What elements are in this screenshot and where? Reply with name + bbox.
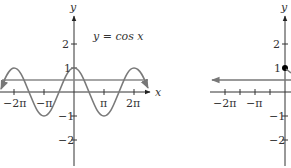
left-y-tick-label: −1 <box>58 110 74 123</box>
left-y-tick-label: −2 <box>58 134 74 147</box>
right-y-tick-label: 1 <box>274 62 281 75</box>
left-y-axis-label: y <box>69 1 77 14</box>
left-x-tick-label: −2π <box>3 97 26 110</box>
right-y-tick-label: 2 <box>273 38 280 51</box>
left-x-tick-label: −π <box>36 97 52 110</box>
left-chart: y x y = cos x −2π −π π 2π 2 1 −1 −2 <box>0 1 162 166</box>
equation-label: y = cos x <box>92 30 144 43</box>
left-x-axis-label: x <box>155 86 162 99</box>
left-x-tick-label: 2π <box>126 97 140 110</box>
left-y-tick-label: 1 <box>64 62 71 75</box>
left-x-tick-label: π <box>100 97 107 110</box>
right-y-tick-label: −1 <box>269 110 285 123</box>
right-x-tick-label: −π <box>246 97 262 110</box>
left-y-tick-label: 2 <box>62 38 69 51</box>
right-y-axis-label: y <box>280 1 288 14</box>
right-x-tick-label: −2π <box>213 97 236 110</box>
right-chart: y −2π −π 2 1 −1 −2 <box>210 1 291 166</box>
figure: y x y = cos x −2π −π π 2π 2 1 −1 −2 <box>0 0 291 168</box>
right-y-tick-label: −2 <box>269 134 285 147</box>
